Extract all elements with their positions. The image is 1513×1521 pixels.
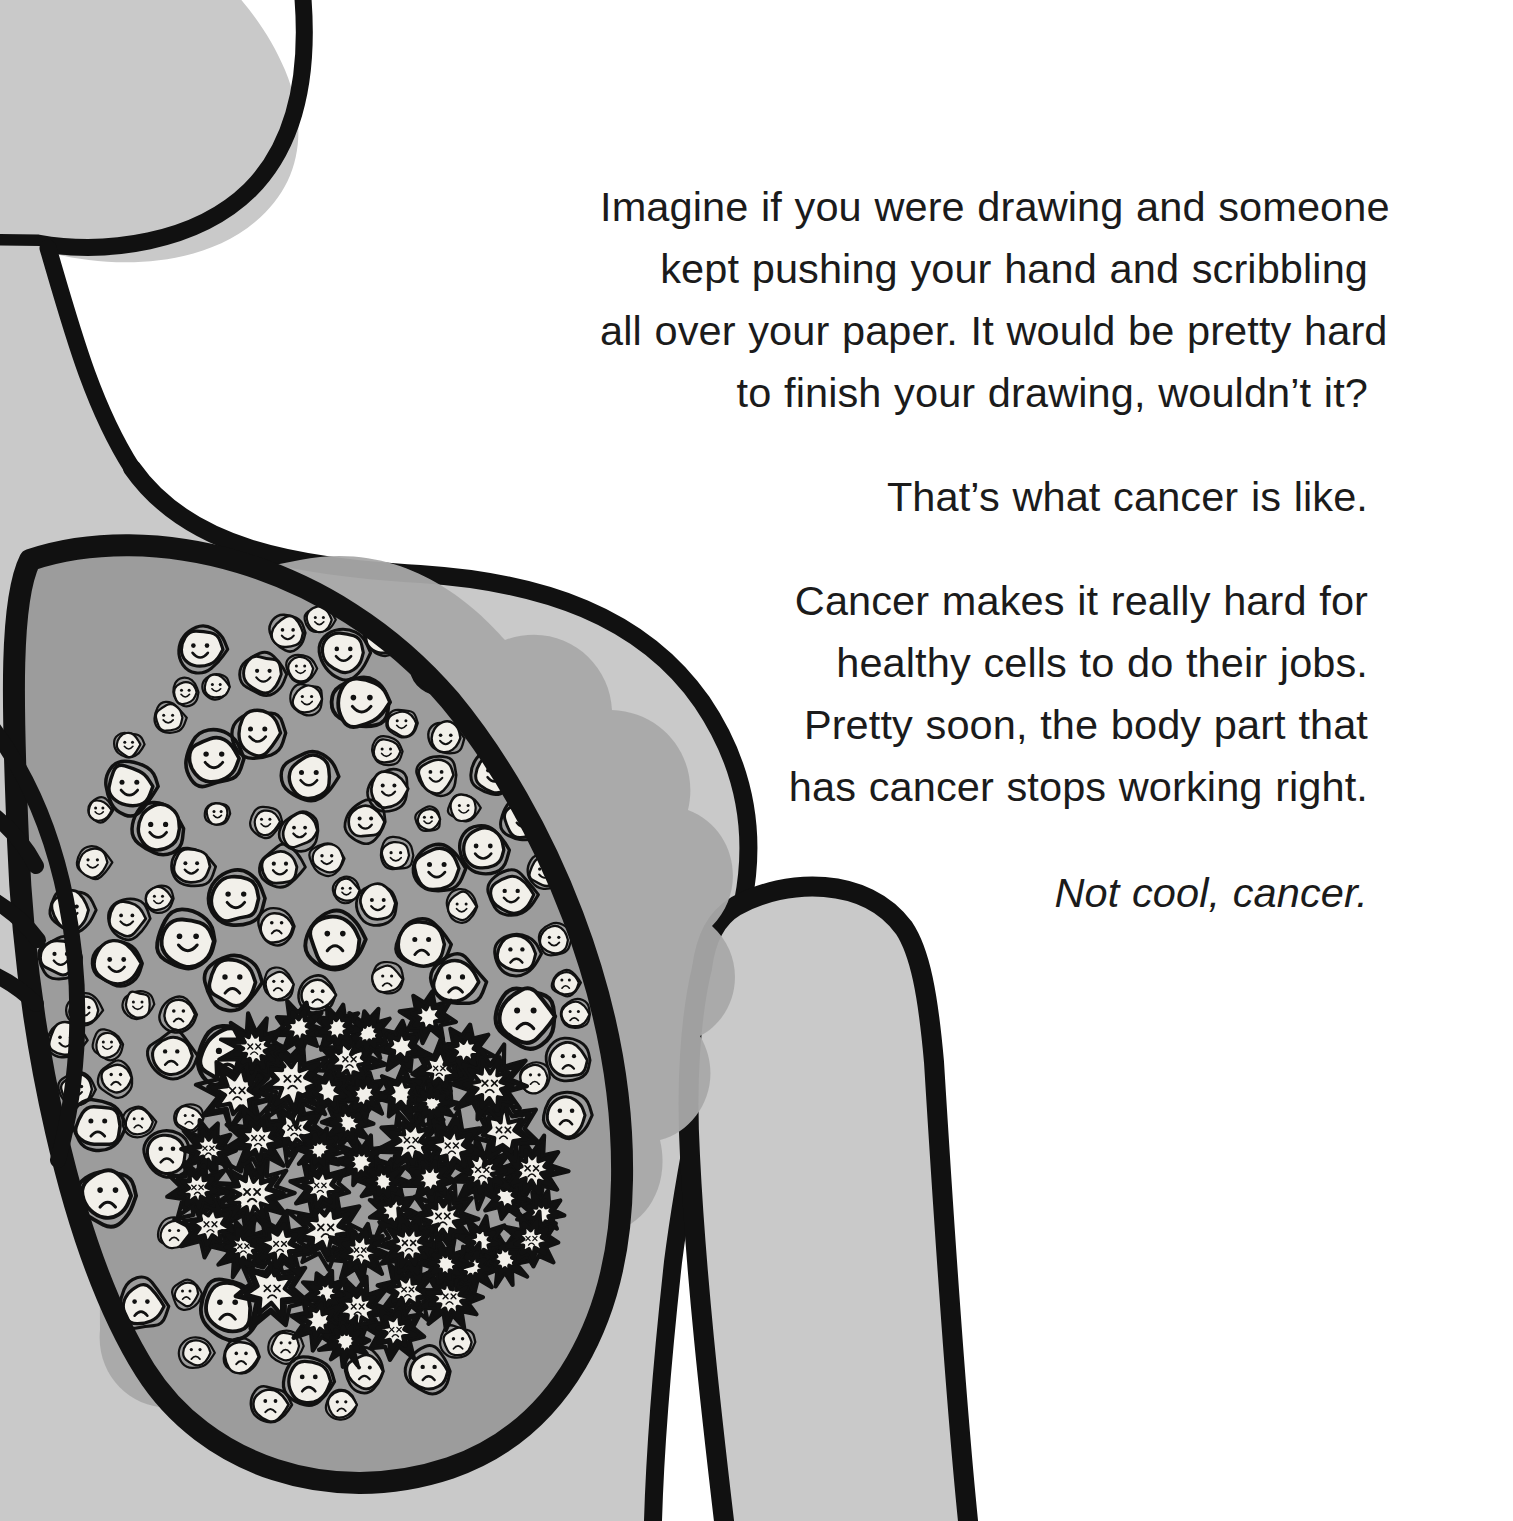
struggling-cell (326, 1390, 357, 1420)
paragraph-cancer-makes: Cancer makes it really hard for healthy … (600, 570, 1368, 818)
healthy-cell (333, 877, 360, 904)
paragraph-not-cool: Not cool, cancer. (600, 862, 1368, 924)
text-line: Not cool, cancer. (600, 862, 1368, 924)
text-line: kept pushing your hand and scribbling (600, 238, 1368, 300)
healthy-cell (205, 803, 230, 825)
paragraph-thats-what: That’s what cancer is like. (600, 466, 1368, 528)
text-line: Imagine if you were drawing and someone (600, 176, 1368, 238)
text-line: Cancer makes it really hard for (600, 570, 1368, 632)
healthy-cell (208, 870, 265, 925)
paragraph-imagine: Imagine if you were drawing and someone … (600, 176, 1368, 424)
struggling-cell (372, 962, 403, 993)
text-line: That’s what cancer is like. (600, 466, 1368, 528)
healthy-cell (202, 674, 229, 699)
struggling-cell (546, 1038, 590, 1081)
healthy-cell (173, 678, 198, 707)
page-root: Imagine if you were drawing and someone … (0, 0, 1513, 1521)
healthy-cell (146, 886, 174, 913)
text-line: all over your paper. It would be pretty … (600, 300, 1368, 362)
text-line: to finish your drawing, wouldn’t it? (600, 362, 1368, 424)
healthy-cell (157, 909, 215, 968)
healthy-cell (415, 806, 440, 831)
story-text-column: Imagine if you were drawing and someone … (600, 134, 1368, 965)
healthy-cell (356, 884, 396, 926)
text-line: has cancer stops working right. (600, 756, 1368, 818)
text-line: Pretty soon, the body part that (600, 694, 1368, 756)
text-line: healthy cells to do their jobs. (600, 632, 1368, 694)
